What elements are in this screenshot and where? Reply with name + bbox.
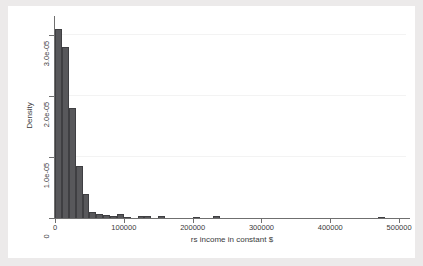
histogram-figure: 01.0e-052.0e-053.0e-05 01000002000003000… [0, 0, 423, 266]
gridline [55, 95, 406, 96]
plot-data-area [55, 20, 406, 218]
x-axis-tick-label: 400000 [318, 223, 343, 232]
x-axis-tick-label: 300000 [249, 223, 274, 232]
histogram-bar [83, 194, 90, 218]
plot-surface: 01.0e-052.0e-053.0e-05 01000002000003000… [8, 6, 415, 258]
histogram-bar [55, 29, 62, 218]
y-axis-tick-label: 0 [42, 217, 51, 257]
y-axis-tick-label: 1.0e-05 [42, 156, 51, 196]
y-axis-line [54, 16, 55, 218]
y-axis-title: Density [25, 86, 34, 146]
gridline [55, 156, 406, 157]
histogram-bar [62, 47, 69, 218]
x-axis-title: rs income in constant $ [54, 235, 410, 244]
x-axis-tick-label: 200000 [180, 223, 205, 232]
gridline [55, 34, 406, 35]
histogram-bar [69, 108, 76, 218]
x-axis-tick-label: 100000 [111, 223, 136, 232]
histogram-bar [76, 166, 83, 218]
y-axis-tick-label: 2.0e-05 [42, 95, 51, 135]
x-axis-tick-label: 500000 [387, 223, 412, 232]
x-axis-tick-label: 0 [53, 223, 57, 232]
x-axis-line [54, 218, 410, 219]
y-axis-tick-label: 3.0e-05 [42, 34, 51, 74]
